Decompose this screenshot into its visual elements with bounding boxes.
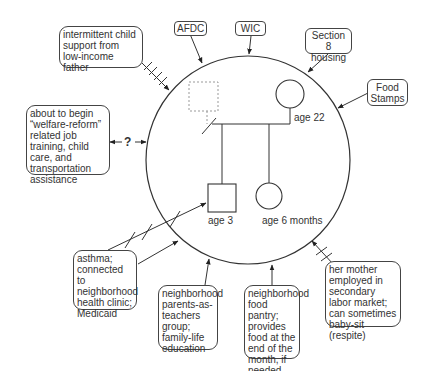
hatch-mark [142,224,152,240]
separation-slash-icon [202,118,216,134]
afdc-connection [190,34,202,63]
daughter-age-label: age 6 months [262,215,323,226]
food-stamps-connection [338,93,368,108]
mother-age-label: age 22 [294,112,325,123]
asthma-son-connection [108,203,206,250]
resource-afdc: AFDC [174,21,207,36]
parents-teachers-connection [205,259,209,285]
son-age-label: age 3 [208,215,233,226]
mother-employed-connection [312,241,333,264]
hatch-mark [321,253,332,261]
resource-mother-employed: her mother employed in secondary labor m… [325,261,401,327]
resource-wic: WIC [235,21,266,36]
resource-food-pantry: neighborhood food pantry; provides food … [244,285,300,359]
resource-food-stamps: Food Stamps [367,79,408,106]
wic-connection [249,36,251,54]
resource-section8: Section 8 housing [305,28,352,54]
hatch-mark [125,232,135,248]
resource-asthma: asthma; connected to neighborhood health… [73,250,137,310]
mother-symbol [276,80,304,108]
household-boundary-circle [146,56,350,264]
uncertain-marker: ? [124,135,131,149]
hatch-mark [316,247,327,255]
resource-parents-teachers: neighborhood parents-as-teachers group; … [158,285,218,350]
child-support-connection [142,63,169,90]
son-symbol [208,184,236,212]
daughter-symbol [256,183,282,209]
asthma-household-connection [138,241,178,264]
resource-welfare-reform: about to begin “welfare-reform” related … [26,105,110,175]
resource-child-support: intermittent child support from low-inco… [59,26,143,68]
father-symbol [189,82,218,111]
